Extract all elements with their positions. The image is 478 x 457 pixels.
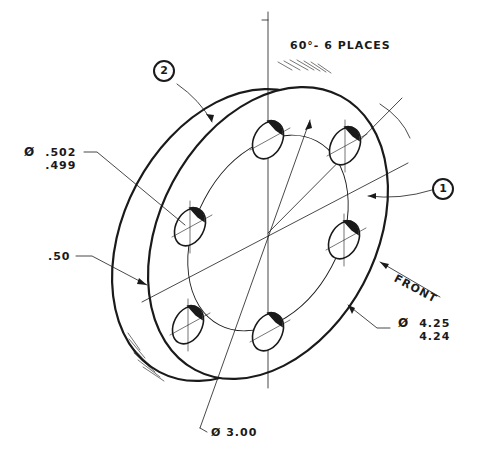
diameter-symbol: Ø [211,426,221,439]
hole-diameter-max: .502 [45,146,76,159]
bottom-edge-hatching [128,333,164,381]
hole-diameter-min: .499 [45,159,76,172]
outer-diameter-min: 4.24 [419,330,450,343]
thickness-callout: .50 [48,250,71,263]
diameter-symbol: Ø [398,316,409,330]
angle-arc [380,104,410,138]
bolt-circle-value: 3.00 [226,426,257,439]
top-edge-hatching [278,60,331,73]
bolt-circle-callout: Ø 3.00 [211,426,257,439]
outer-diameter-callout: Ø4.254.24 [398,317,450,343]
hole-diameter-callout: Ø.502.499 [24,146,76,172]
balloon-2: 2 [153,60,175,82]
angle-spacing-label: 60°- 6 PLACES [290,39,391,52]
flange-drawing [0,0,478,457]
outer-diameter-max: 4.25 [419,317,450,330]
balloon-1: 1 [432,178,454,200]
diameter-symbol: Ø [24,145,35,159]
